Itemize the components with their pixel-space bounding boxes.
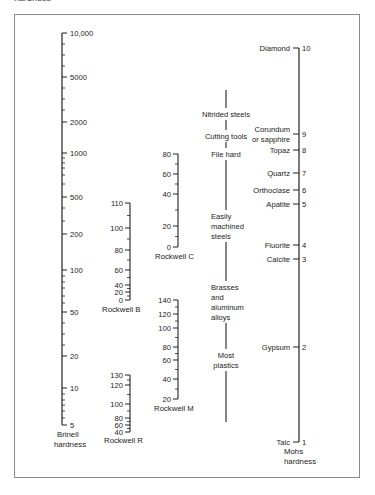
brinell-tick-label: 500 — [70, 193, 83, 202]
material-label: alloys — [211, 313, 231, 322]
mohs-mineral-label: Calcite — [267, 255, 290, 264]
rockwell-m-tick-label: 20 — [163, 395, 171, 404]
hardness-scales-diagram: 10,0005000200010005002001005020105 Brine… — [0, 0, 375, 495]
rockwell-c-tick-label: 0 — [167, 243, 171, 252]
brinell-title-line1: Brinell — [57, 430, 79, 439]
rockwell-r-tick-label: 100 — [110, 400, 123, 409]
brinell-tick-label: 20 — [70, 352, 78, 361]
mohs-mineral-label: Quartz — [267, 169, 290, 178]
rockwell-m-tick-label: 140 — [158, 296, 171, 305]
material-label: and — [211, 293, 224, 302]
mohs-title-line1: Mohs — [284, 447, 303, 456]
brinell-tick-label: 1000 — [70, 149, 87, 158]
material-label: plastics — [213, 361, 239, 370]
material-label: machined — [211, 222, 244, 231]
mohs-value: 5 — [302, 200, 306, 209]
rockwell-m-title: Rockwell M — [154, 404, 194, 413]
rockwell-b-title: Rockwell B — [102, 305, 141, 314]
rockwell-m-tick-label: 40 — [163, 375, 171, 384]
rockwell-b-tick-label: 110 — [111, 199, 123, 208]
brinell-tick-label: 50 — [70, 308, 78, 317]
rockwell-m-tick-label: 120 — [158, 310, 171, 319]
rockwell-r-scale: 130120100806040 Rockwell R — [104, 371, 143, 445]
rockwell-b-scale: 110100806040200 Rockwell B — [102, 199, 141, 314]
mohs-value: 1 — [302, 438, 306, 447]
rockwell-c-tick-label: 20 — [163, 222, 171, 231]
mohs-scale: 10Diamond9Corundumor sapphire8Topaz7Quar… — [252, 44, 316, 466]
rockwell-r-tick-label: 120 — [110, 381, 123, 390]
mohs-title-line2: hardness — [284, 457, 316, 466]
mohs-value: 7 — [302, 169, 306, 178]
material-label: Easily — [211, 212, 231, 221]
brinell-tick-label: 5 — [70, 421, 74, 430]
brinell-title-line2: hardness — [54, 440, 86, 449]
material-label: File hard — [211, 150, 241, 159]
mohs-value: 3 — [302, 255, 306, 264]
rockwell-m-tick-label: 80 — [163, 343, 171, 352]
mohs-mineral-label: or sapphire — [252, 135, 290, 144]
rockwell-c-scale: 806040200 Rockwell C — [155, 150, 194, 261]
rockwell-r-tick-label: 130 — [110, 371, 123, 380]
mohs-value: 9 — [302, 130, 306, 139]
rockwell-c-tick-label: 60 — [163, 170, 171, 179]
material-label: aluminum — [211, 303, 244, 312]
mohs-mineral-label: Diamond — [260, 44, 290, 53]
mohs-mineral-label: Topaz — [270, 146, 290, 155]
rockwell-r-title: Rockwell R — [104, 436, 143, 445]
brinell-tick-label: 10 — [70, 384, 78, 393]
rockwell-m-tick-label: 100 — [158, 324, 171, 333]
brinell-tick-label: 10,000 — [70, 29, 93, 38]
mohs-value: 6 — [302, 186, 306, 195]
rockwell-b-tick-label: 80 — [115, 246, 123, 255]
mohs-mineral-label: Corundum — [255, 125, 290, 134]
mohs-value: 8 — [302, 146, 306, 155]
mohs-value: 10 — [302, 44, 310, 53]
material-label: Cutting tools — [205, 132, 247, 141]
brinell-tick-label: 100 — [70, 266, 83, 275]
rockwell-b-tick-label: 100 — [110, 224, 123, 233]
rockwell-b-tick-label: 0 — [119, 296, 123, 305]
mohs-mineral-label: Fluorite — [265, 241, 290, 250]
material-label: Nitrided steels — [202, 110, 250, 119]
brinell-scale: 10,0005000200010005002001005020105 Brine… — [54, 29, 93, 449]
mohs-mineral-label: Orthoclase — [253, 186, 290, 195]
rockwell-m-tick-label: 60 — [163, 356, 171, 365]
rockwell-m-scale: 14012010080604020 Rockwell M — [154, 296, 194, 413]
brinell-tick-label: 5000 — [70, 73, 87, 82]
mohs-mineral-label: Apatite — [266, 200, 290, 209]
brinell-tick-label: 2000 — [70, 118, 87, 127]
rockwell-c-tick-label: 80 — [163, 150, 171, 159]
material-label: steels — [211, 232, 231, 241]
rockwell-c-title: Rockwell C — [155, 252, 194, 261]
material-label: Brasses — [211, 283, 239, 292]
mohs-value: 4 — [302, 241, 306, 250]
mohs-mineral-label: Talc — [276, 438, 290, 447]
mohs-mineral-label: Gypsum — [262, 343, 290, 352]
rockwell-c-tick-label: 40 — [163, 190, 171, 199]
material-label: Most — [218, 351, 235, 360]
brinell-tick-label: 200 — [70, 230, 83, 239]
rockwell-b-tick-label: 60 — [115, 266, 123, 275]
mohs-value: 2 — [302, 343, 306, 352]
